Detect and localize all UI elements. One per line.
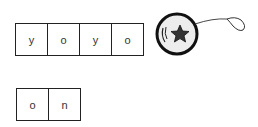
letter-cell: o	[48, 24, 80, 55]
letter-cell: o	[112, 24, 143, 55]
letter-cell: y	[16, 24, 48, 55]
word-box-on: o n	[16, 88, 81, 121]
yoyo-icon	[155, 8, 250, 58]
letter-cell: o	[17, 89, 49, 120]
word-box-yoyo: y o y o	[15, 23, 144, 56]
letter-cell: y	[80, 24, 112, 55]
letter-cell: n	[49, 89, 80, 120]
